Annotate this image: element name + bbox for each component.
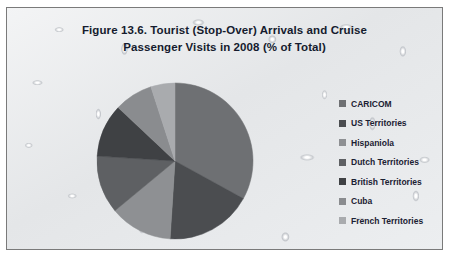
legend-item-french-territories: French Territories xyxy=(339,211,443,231)
legend-item-hispaniola: Hispaniola xyxy=(339,133,443,153)
legend-item-caricom: CARICOM xyxy=(339,94,443,114)
figure-container: Figure 13.6. Tourist (Stop-Over) Arrival… xyxy=(6,7,443,250)
legend-swatch-icon xyxy=(339,120,346,127)
figure-title-line-1: Figure 13.6. Tourist (Stop-Over) Arrival… xyxy=(7,22,442,39)
legend-item-label: Dutch Territories xyxy=(351,157,419,167)
legend-swatch-icon xyxy=(339,198,346,205)
figure-title-line-2: Passenger Visits in 2008 (% of Total) xyxy=(7,39,442,56)
legend-item-cuba: Cuba xyxy=(339,192,443,212)
legend-swatch-icon xyxy=(339,100,346,107)
legend-item-british-territories: British Territories xyxy=(339,172,443,192)
legend-swatch-icon xyxy=(339,159,346,166)
legend-item-label: Cuba xyxy=(351,196,372,206)
chart-legend: CARICOMUS TerritoriesHispaniolaDutch Ter… xyxy=(339,94,443,231)
legend-item-label: British Territories xyxy=(351,177,422,187)
legend-item-label: CARICOM xyxy=(351,99,392,109)
legend-item-label: Hispaniola xyxy=(351,138,394,148)
legend-swatch-icon xyxy=(339,139,346,146)
figure-title: Figure 13.6. Tourist (Stop-Over) Arrival… xyxy=(7,22,442,56)
legend-item-us-territories: US Territories xyxy=(339,114,443,134)
pie-chart-svg xyxy=(89,75,261,247)
legend-swatch-icon xyxy=(339,178,346,185)
pie-chart xyxy=(89,75,261,247)
legend-item-label: French Territories xyxy=(351,216,423,226)
legend-swatch-icon xyxy=(339,217,346,224)
legend-item-dutch-territories: Dutch Territories xyxy=(339,153,443,173)
legend-item-label: US Territories xyxy=(351,118,407,128)
